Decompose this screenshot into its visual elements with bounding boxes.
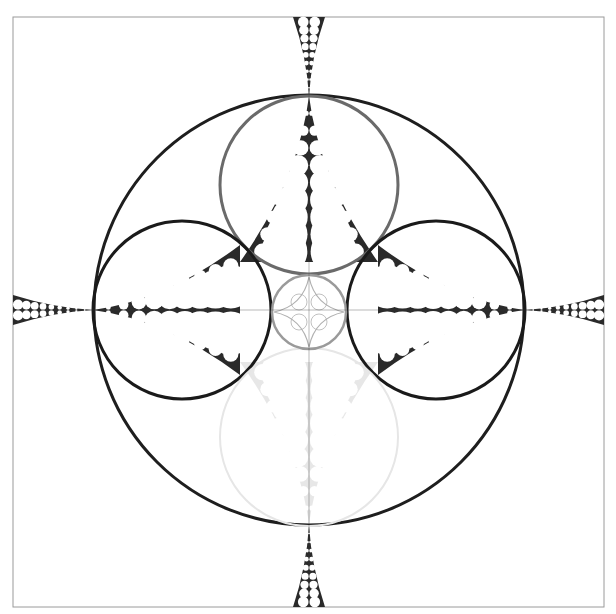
gasket-layer [13, 17, 604, 608]
fractal-canvas [0, 0, 616, 614]
